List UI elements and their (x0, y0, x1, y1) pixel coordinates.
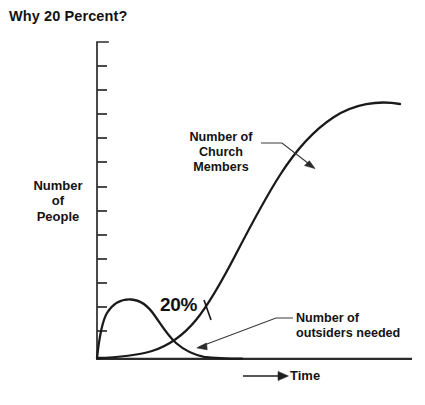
outsiders-leader-line (197, 318, 293, 350)
y-axis-label-line-1: Number (24, 178, 92, 193)
annotation-outsiders-needed-line-2: outsiders needed (296, 326, 422, 341)
annotation-outsiders-needed: Number of outsiders needed (296, 311, 422, 341)
time-arrow-icon (243, 371, 289, 380)
y-axis-ticks (97, 66, 107, 331)
outsiders-leader-arrowhead (197, 343, 207, 350)
y-axis-label: Number of People (24, 178, 92, 224)
annotation-church-members-line-3: Members (182, 160, 260, 175)
annotation-outsiders-needed-line-1: Number of (296, 311, 422, 326)
annotation-twenty-percent: 20% (160, 294, 197, 316)
annotation-church-members-line-1: Number of (182, 130, 260, 145)
y-axis-label-line-3: People (24, 209, 92, 224)
annotation-church-members-line-2: Church (182, 145, 260, 160)
x-axis-label: Time (290, 368, 320, 383)
annotation-church-members: Number of Church Members (182, 130, 260, 175)
y-axis-label-line-2: of (24, 193, 92, 208)
chart-page: Why 20 Percent? (0, 0, 425, 405)
